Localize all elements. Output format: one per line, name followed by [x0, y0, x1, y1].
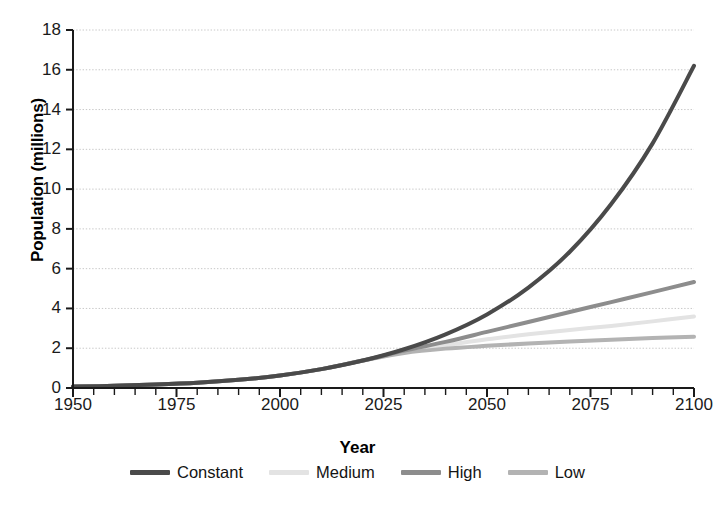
y-tick-label: 6 [25, 260, 61, 277]
legend-swatch-icon [508, 470, 548, 475]
legend-item-medium[interactable]: Medium [269, 463, 375, 482]
y-tick-label: 18 [25, 21, 61, 38]
y-tick-label: 12 [25, 140, 61, 157]
x-tick-label: 2075 [556, 396, 626, 413]
series-line-low [73, 337, 694, 387]
x-tick-label: 2000 [245, 396, 315, 413]
axis-lines [73, 30, 694, 388]
plot-area [0, 0, 715, 513]
legend-swatch-icon [401, 470, 441, 475]
y-tick-label: 8 [25, 220, 61, 237]
legend-item-constant[interactable]: Constant [130, 463, 243, 482]
legend-label: Low [555, 463, 585, 482]
legend-item-low[interactable]: Low [508, 463, 585, 482]
x-axis-title: Year [0, 438, 715, 458]
series-line-medium [73, 316, 694, 386]
x-tick-label: 1975 [142, 396, 212, 413]
y-tick-label: 14 [25, 101, 61, 118]
legend-swatch-icon [130, 470, 170, 475]
y-tick-label: 2 [25, 339, 61, 356]
x-tick-label: 2100 [659, 396, 715, 413]
y-tick-label: 0 [25, 379, 61, 396]
x-tick-label: 1950 [38, 396, 108, 413]
x-tick-label: 2050 [452, 396, 522, 413]
legend-label: Constant [177, 463, 243, 482]
y-tick-label: 16 [25, 61, 61, 78]
legend-item-high[interactable]: High [401, 463, 482, 482]
y-tick-label: 4 [25, 299, 61, 316]
legend-swatch-icon [269, 470, 309, 475]
population-projection-chart: Population (millions) 024681012141618 19… [0, 0, 715, 513]
series-line-high [73, 282, 694, 387]
chart-legend: ConstantMediumHighLow [0, 463, 715, 482]
legend-label: Medium [316, 463, 375, 482]
y-tick-label: 10 [25, 180, 61, 197]
legend-label: High [448, 463, 482, 482]
x-tick-label: 2025 [349, 396, 419, 413]
